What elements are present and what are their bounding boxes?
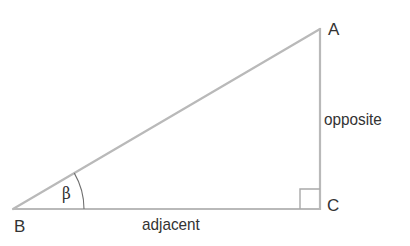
angle-arc xyxy=(74,173,84,209)
side-label-adjacent: adjacent xyxy=(142,216,200,233)
right-triangle-diagram: A C B opposite adjacent β xyxy=(0,0,410,246)
angle-label-beta: β xyxy=(62,185,71,202)
hypotenuse-line xyxy=(13,29,320,209)
vertex-label-b: B xyxy=(14,218,25,235)
right-angle-marker xyxy=(300,189,320,209)
vertex-label-a: A xyxy=(328,21,339,38)
side-label-opposite: opposite xyxy=(324,111,382,128)
vertex-label-c: C xyxy=(327,197,339,214)
